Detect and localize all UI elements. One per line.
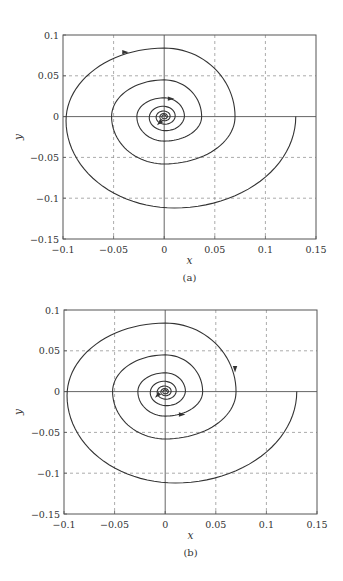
y-tick-label: −0.05	[30, 152, 59, 163]
spiral-trajectory	[66, 48, 296, 208]
x-tick-label: 0.1	[259, 519, 274, 530]
x-tick-label: 0	[161, 244, 167, 255]
y-tick-label: 0.05	[38, 70, 59, 81]
x-tick-label: 0.15	[306, 519, 327, 530]
x-tick-label: −0.05	[100, 519, 129, 530]
y-tick-label: −0.1	[37, 468, 60, 479]
spiral-trajectory	[67, 323, 297, 483]
y-axis-label: y	[12, 133, 24, 141]
x-tick-label: 0.1	[258, 244, 273, 255]
y-tick-label: −0.05	[31, 427, 60, 438]
x-axis-label: x	[188, 529, 194, 541]
x-tick-label: −0.1	[52, 519, 75, 530]
y-tick-label: 0.1	[45, 305, 60, 316]
chart-panel-b: −0.1−0.0500.050.10.15−0.15−0.1−0.0500.05…	[12, 305, 328, 559]
x-tick-label: 0.05	[205, 519, 226, 530]
x-tick-label: −0.05	[99, 244, 128, 255]
x-axis-label: x	[187, 254, 193, 266]
y-axis-label: y	[12, 408, 24, 416]
chart-panel-a: −0.1−0.0500.050.10.15−0.15−0.1−0.0500.05…	[12, 30, 327, 284]
panel-caption: (b)	[183, 547, 197, 558]
x-tick-label: 0	[162, 519, 168, 530]
x-tick-label: 0.05	[204, 244, 225, 255]
y-tick-label: −0.1	[36, 193, 59, 204]
x-tick-label: 0.15	[305, 244, 326, 255]
y-tick-label: 0	[54, 386, 60, 397]
y-tick-label: 0.1	[44, 30, 59, 41]
y-tick-label: −0.15	[31, 509, 60, 520]
panel-caption: (a)	[183, 272, 197, 283]
x-tick-label: −0.1	[51, 244, 74, 255]
y-tick-label: −0.15	[30, 234, 59, 245]
figure: −0.1−0.0500.050.10.15−0.15−0.1−0.0500.05…	[0, 0, 343, 581]
y-tick-label: 0	[53, 111, 59, 122]
y-tick-label: 0.05	[39, 345, 60, 356]
